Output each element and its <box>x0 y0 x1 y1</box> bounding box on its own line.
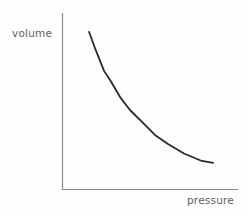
chart-figure: volume pressure <box>0 0 247 214</box>
x-axis-label: pressure <box>187 194 234 206</box>
y-axis-label: volume <box>12 27 52 39</box>
data-curve-volume-vs-pressure <box>89 32 213 163</box>
